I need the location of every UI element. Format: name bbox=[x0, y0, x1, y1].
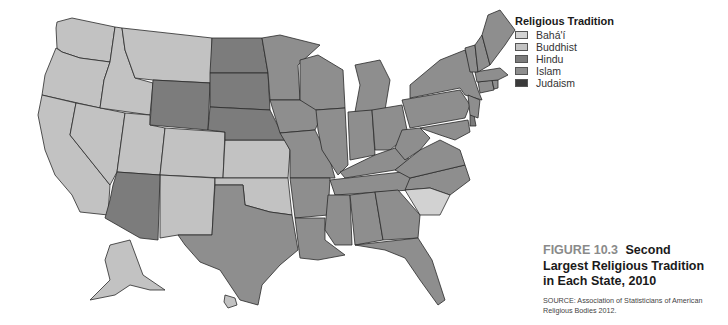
state-north-dakota bbox=[210, 38, 268, 73]
state-wisconsin bbox=[300, 55, 345, 110]
state-hawaii bbox=[224, 295, 237, 308]
state-florida bbox=[355, 238, 445, 305]
legend-swatch-hindu bbox=[515, 55, 528, 63]
figure-number: FIGURE 10.3 bbox=[543, 243, 618, 257]
state-arizona bbox=[105, 172, 160, 240]
state-michigan bbox=[355, 60, 390, 112]
state-indiana bbox=[348, 110, 375, 160]
map-legend: Religious Tradition Bahá'í Buddhist Hind… bbox=[515, 15, 614, 89]
legend-label: Judaism bbox=[536, 77, 575, 89]
figure-title-line-3: in Each State, 2010 bbox=[543, 274, 723, 290]
legend-item-judaism: Judaism bbox=[515, 77, 614, 88]
legend-swatch-judaism bbox=[515, 79, 528, 87]
legend-label: Bahá'í bbox=[536, 29, 565, 41]
figure-title-part-1: Second bbox=[626, 243, 671, 257]
legend-label: Hindu bbox=[536, 53, 563, 65]
legend-label: Buddhist bbox=[536, 41, 577, 53]
state-arkansas bbox=[290, 178, 330, 218]
figure-caption: FIGURE 10.3 Second Largest Religious Tra… bbox=[543, 243, 723, 316]
legend-item-hindu: Hindu bbox=[515, 53, 614, 64]
legend-swatch-islam bbox=[515, 67, 528, 75]
legend-swatch-bahai bbox=[515, 31, 528, 39]
legend-swatch-buddhist bbox=[515, 43, 528, 51]
state-mississippi bbox=[325, 195, 352, 245]
legend-item-buddhist: Buddhist bbox=[515, 41, 614, 52]
state-kansas bbox=[223, 140, 290, 178]
legend-item-bahai: Bahá'í bbox=[515, 29, 614, 40]
figure-source: SOURCE: Association of Statisticians of … bbox=[543, 296, 713, 316]
state-south-dakota bbox=[210, 73, 270, 110]
state-new-mexico bbox=[160, 175, 215, 238]
legend-label: Islam bbox=[536, 65, 561, 77]
state-alaska bbox=[90, 240, 165, 300]
figure-title-line-1: FIGURE 10.3 Second bbox=[543, 243, 723, 259]
legend-title: Religious Tradition bbox=[515, 15, 614, 27]
figure-title-line-2: Largest Religious Tradition bbox=[543, 259, 723, 275]
state-colorado bbox=[160, 128, 225, 178]
legend-item-islam: Islam bbox=[515, 65, 614, 76]
state-wyoming bbox=[150, 80, 210, 130]
state-montana bbox=[122, 28, 212, 83]
